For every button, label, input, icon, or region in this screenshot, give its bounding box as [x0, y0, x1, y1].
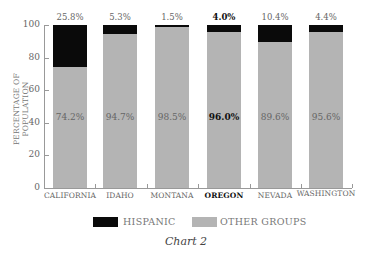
bar-washington: [309, 25, 343, 188]
bar-segment-other-groups: [207, 32, 241, 188]
bar-montana: [155, 25, 189, 188]
legend-label-hispanic: HISPANIC: [123, 216, 176, 227]
x-tick-label: IDAHO: [90, 191, 150, 200]
hispanic-value-label: 5.3%: [95, 12, 145, 22]
y-tick: [44, 90, 49, 91]
bar-segment-hispanic: [309, 25, 343, 32]
hispanic-value-label: 10.4%: [250, 12, 300, 22]
y-tick: [44, 155, 49, 156]
bar-segment-other-groups: [309, 32, 343, 188]
hispanic-value-label: 25.8%: [45, 12, 95, 22]
bar-segment-hispanic: [103, 25, 137, 34]
bar-segment-other-groups: [53, 67, 87, 188]
y-tick: [44, 123, 49, 124]
y-tick: [44, 25, 49, 26]
x-tick: [352, 184, 353, 188]
other-groups-value-label: 98.5%: [147, 112, 197, 122]
y-tick-label: 20: [20, 149, 40, 159]
other-groups-value-label: 95.6%: [301, 112, 351, 122]
y-axis: [44, 25, 45, 188]
x-tick: [198, 184, 199, 188]
other-groups-value-label: 74.2%: [45, 112, 95, 122]
hispanic-value-label: 4.4%: [301, 12, 351, 22]
y-tick-label: 100: [20, 19, 40, 29]
x-tick: [250, 184, 251, 188]
x-tick-label: MONTANA: [142, 191, 202, 200]
chart-caption: Chart 2: [0, 235, 372, 248]
bar-segment-hispanic: [258, 25, 292, 42]
y-tick-label: 80: [20, 52, 40, 62]
y-tick: [44, 58, 49, 59]
other-groups-value-label: 94.7%: [95, 112, 145, 122]
y-tick-label: 0: [20, 182, 40, 192]
x-tick: [301, 184, 302, 188]
y-axis-label: PERCENTAGE OF POPULATION: [12, 54, 30, 164]
bar-oregon: [207, 25, 241, 188]
bar-segment-other-groups: [103, 34, 137, 188]
x-tick: [95, 184, 96, 188]
bar-nevada: [258, 25, 292, 188]
bar-segment-hispanic: [53, 25, 87, 67]
x-tick-label: WASHINGTON: [296, 189, 356, 198]
hispanic-value-label: 4.0%: [199, 12, 249, 22]
y-tick: [44, 188, 49, 189]
legend-swatch-other-groups: [192, 217, 217, 227]
bar-idaho: [103, 25, 137, 188]
hispanic-value-label: 1.5%: [147, 12, 197, 22]
other-groups-value-label: 96.0%: [199, 112, 249, 122]
x-tick: [147, 184, 148, 188]
bar-california: [53, 25, 87, 188]
bar-segment-other-groups: [155, 27, 189, 188]
y-tick-label: 40: [20, 117, 40, 127]
other-groups-value-label: 89.6%: [250, 112, 300, 122]
y-tick-label: 60: [20, 84, 40, 94]
legend-swatch-hispanic: [93, 217, 118, 227]
legend-label-other-groups: OTHER GROUPS: [220, 216, 307, 227]
